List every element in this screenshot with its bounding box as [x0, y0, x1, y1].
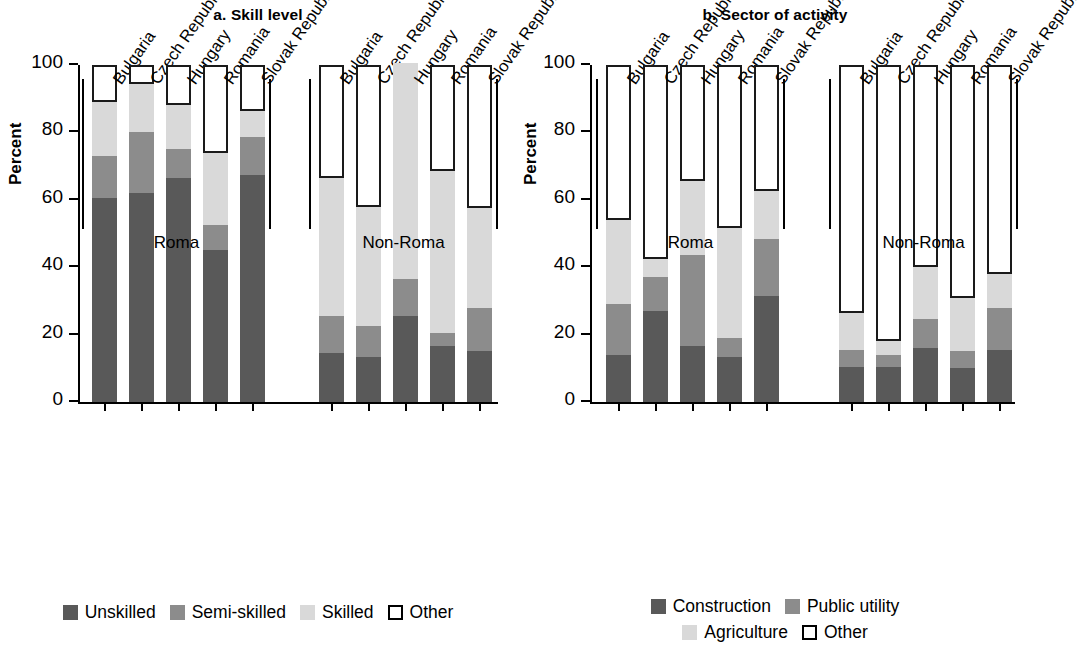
- x-axis-tick: [692, 402, 694, 411]
- panel-skill-level: a. Skill level Percent 020406080100Bulga…: [0, 0, 516, 653]
- y-axis-tick-label: 0: [52, 388, 63, 410]
- bar-segment-public-utility: [606, 304, 631, 355]
- y-axis-tick-label: 20: [554, 321, 575, 343]
- y-axis-tick-label: 60: [42, 186, 63, 208]
- group-label-roma: Roma: [596, 233, 785, 253]
- panel-sector-of-activity: b. Sector of activity Percent 0204060801…: [517, 0, 1033, 653]
- legend-label: Other: [824, 624, 868, 642]
- y-axis-tick: 80: [69, 130, 78, 132]
- bar-segment-unskilled: [203, 250, 228, 402]
- bar-segment-unskilled: [393, 316, 418, 402]
- bar-segment-construction: [643, 311, 668, 402]
- y-axis-tick: 60: [581, 198, 590, 200]
- x-axis-tick: [442, 402, 444, 411]
- legend-item-skilled: Skilled: [300, 604, 374, 622]
- legend-item-construction: Construction: [651, 598, 771, 616]
- panel-a-legend-row: UnskilledSemi-skilledSkilledOther: [0, 604, 516, 622]
- panel-a-y-axis-title: Percent: [6, 123, 26, 185]
- legend-label: Public utility: [807, 598, 899, 616]
- bar-segment-public-utility: [680, 255, 705, 346]
- bar-segment-unskilled: [356, 357, 381, 402]
- bar-segment-public-utility: [876, 355, 901, 367]
- legend-label: Semi-skilled: [192, 604, 286, 622]
- bar-segment-agriculture: [950, 298, 975, 352]
- bar-segment-semi-skilled: [356, 326, 381, 356]
- x-axis-tick: [618, 402, 620, 411]
- group-bracket: [829, 79, 1018, 229]
- legend-swatch-icon: [651, 599, 666, 614]
- y-axis-tick-label: 80: [42, 118, 63, 140]
- panel-b-y-axis-line: [590, 65, 592, 403]
- x-axis-tick: [479, 402, 481, 411]
- bar-segment-unskilled: [430, 346, 455, 402]
- y-axis-tick-label: 100: [31, 51, 63, 73]
- group-label-non-roma: Non-Roma: [829, 233, 1018, 253]
- x-axis-tick: [851, 402, 853, 411]
- bar-segment-semi-skilled: [393, 279, 418, 316]
- y-axis-tick-label: 40: [554, 253, 575, 275]
- panel-b-legend-row-1: ConstructionPublic utility: [517, 598, 1033, 616]
- bar-segment-construction: [876, 367, 901, 402]
- bar-segment-semi-skilled: [467, 308, 492, 352]
- x-axis-tick: [962, 402, 964, 411]
- legend-label: Unskilled: [85, 604, 156, 622]
- bar-segment-unskilled: [319, 353, 344, 402]
- x-axis-tick: [925, 402, 927, 411]
- panel-a-y-axis-line: [78, 65, 80, 403]
- y-axis-tick: 80: [581, 130, 590, 132]
- panel-a-plot-area: 020406080100BulgariaCzech RepublicHungar…: [78, 65, 498, 402]
- y-axis-tick-label: 40: [42, 253, 63, 275]
- legend-label: Other: [410, 604, 454, 622]
- bar-segment-construction: [913, 348, 938, 402]
- legend-item-other: Other: [802, 624, 868, 642]
- bar-segment-construction: [606, 355, 631, 402]
- x-axis-tick: [104, 402, 106, 411]
- panel-a-legend: UnskilledSemi-skilledSkilledOther: [0, 604, 516, 622]
- bar-segment-public-utility: [913, 319, 938, 348]
- y-axis-tick: 100: [69, 63, 78, 65]
- y-axis-tick-label: 20: [42, 321, 63, 343]
- legend-label: Construction: [673, 598, 771, 616]
- group-bracket: [82, 79, 271, 229]
- x-axis-tick: [178, 402, 180, 411]
- bar-segment-construction: [839, 367, 864, 402]
- bar-segment-agriculture: [987, 274, 1012, 308]
- x-axis-tick: [368, 402, 370, 411]
- y-axis-tick-label: 100: [543, 51, 575, 73]
- bar-segment-agriculture: [643, 259, 668, 278]
- x-axis-tick: [655, 402, 657, 411]
- group-label-non-roma: Non-Roma: [309, 233, 498, 253]
- panel-b-legend-row-2: AgricultureOther: [517, 624, 1033, 642]
- bar-segment-semi-skilled: [319, 316, 344, 353]
- legend-swatch-icon: [170, 605, 185, 620]
- bar-segment-public-utility: [987, 308, 1012, 350]
- bar-segment-semi-skilled: [430, 333, 455, 346]
- legend-swatch-icon: [63, 605, 78, 620]
- bar-segment-construction: [754, 296, 779, 402]
- x-axis-tick: [405, 402, 407, 411]
- legend-swatch-icon: [682, 625, 697, 640]
- y-axis-tick-label: 60: [554, 186, 575, 208]
- legend-label: Skilled: [322, 604, 374, 622]
- y-axis-tick: 20: [581, 333, 590, 335]
- legend-swatch-icon: [802, 625, 817, 640]
- bar-segment-agriculture: [876, 341, 901, 354]
- legend-swatch-icon: [388, 605, 403, 620]
- x-axis-tick: [888, 402, 890, 411]
- bar-segment-agriculture: [913, 267, 938, 319]
- group-label-roma: Roma: [82, 233, 271, 253]
- legend-item-semi-skilled: Semi-skilled: [170, 604, 286, 622]
- group-bracket: [309, 79, 498, 229]
- y-axis-tick-label: 0: [564, 388, 575, 410]
- panel-b-plot-area: 020406080100BulgariaCzech RepublicHungar…: [590, 65, 1015, 402]
- bar-segment-public-utility: [717, 338, 742, 357]
- bar-segment-construction: [950, 368, 975, 402]
- y-axis-tick: 100: [581, 63, 590, 65]
- group-bracket: [596, 79, 785, 229]
- y-axis-tick: 20: [69, 333, 78, 335]
- x-axis-tick: [766, 402, 768, 411]
- x-axis-tick: [215, 402, 217, 411]
- x-axis-tick: [729, 402, 731, 411]
- legend-swatch-icon: [300, 605, 315, 620]
